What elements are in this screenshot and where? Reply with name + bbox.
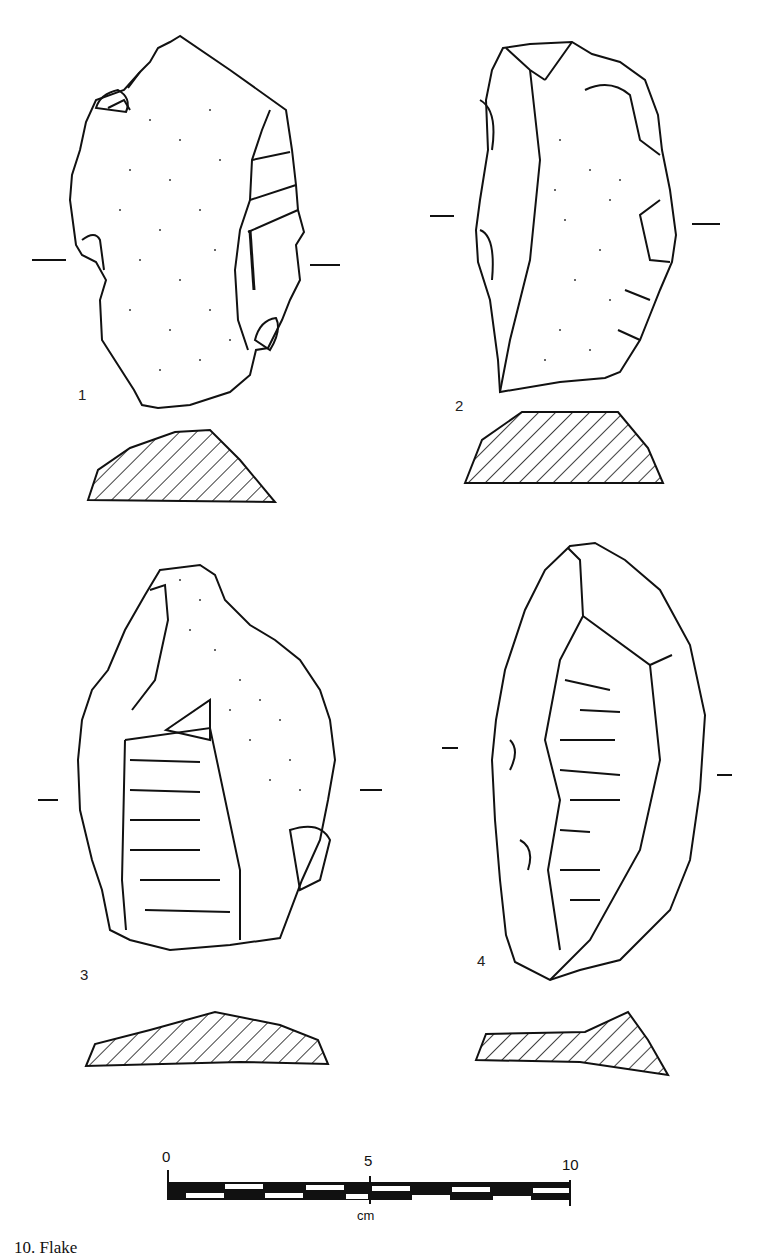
artifact-label-4: 4 <box>477 952 485 969</box>
artifact-3-dots <box>179 579 301 791</box>
scale-tick-5: 5 <box>364 1152 372 1169</box>
artifact-label-3: 3 <box>80 966 88 983</box>
artifact-3-section <box>86 1012 328 1066</box>
artifact-3-drawing <box>78 565 335 950</box>
artifact-1-dots <box>119 109 231 371</box>
scale-bar <box>168 1170 570 1206</box>
scale-tick-10: 10 <box>562 1156 579 1173</box>
figure-caption: 10. Flake <box>14 1238 77 1257</box>
artifact-1-drawing <box>70 36 304 408</box>
artifact-2-section <box>465 412 663 483</box>
artifact-4-section <box>476 1012 668 1075</box>
scale-tick-0: 0 <box>162 1148 170 1165</box>
artifact-label-1: 1 <box>78 386 86 403</box>
artifact-1-section <box>88 430 275 502</box>
artifact-2-drawing <box>476 42 676 392</box>
scale-unit: cm <box>357 1208 374 1223</box>
artifact-2-dots <box>544 139 621 361</box>
artifact-4-drawing <box>492 543 705 980</box>
artifact-label-2: 2 <box>455 397 463 414</box>
